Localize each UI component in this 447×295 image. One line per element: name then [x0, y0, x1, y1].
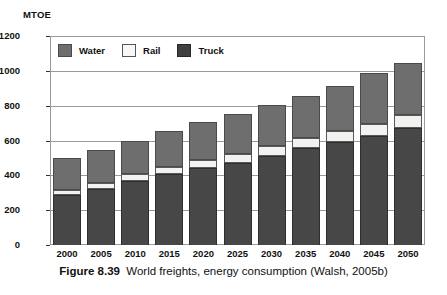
legend-swatch-rail-icon [122, 44, 136, 57]
bar-segment-rail-2025[interactable] [224, 154, 252, 164]
bar-group-2045[interactable] [360, 73, 388, 245]
bar-segment-truck-2000[interactable] [53, 195, 81, 245]
bar-group-2035[interactable] [292, 96, 320, 245]
bar-segment-truck-2050[interactable] [394, 128, 422, 245]
x-axis-tick-label-2050: 2050 [391, 249, 425, 259]
y-axis-tick-label: 800 [0, 101, 20, 111]
bar-group-2010[interactable] [121, 141, 149, 246]
legend-label-rail: Rail [143, 45, 160, 56]
legend-swatch-water-icon [58, 44, 72, 57]
bar-group-2005[interactable] [87, 150, 115, 245]
bar-segment-water-2025[interactable] [224, 114, 252, 154]
bar-group-2015[interactable] [155, 131, 183, 245]
bar-segment-rail-2010[interactable] [121, 174, 149, 181]
bar-segment-rail-2040[interactable] [326, 131, 354, 142]
bar-segment-truck-2035[interactable] [292, 148, 320, 245]
legend-entry-water[interactable]: Water [58, 44, 105, 57]
y-axis-tick-mark [46, 245, 50, 246]
bar-segment-water-2050[interactable] [394, 63, 422, 115]
x-axis-tick-label-2010: 2010 [118, 249, 152, 259]
bar-group-2000[interactable] [53, 158, 81, 245]
bar-group-2020[interactable] [189, 122, 217, 245]
y-axis-unit-label: MTOE [23, 9, 51, 20]
legend-swatch-truck-icon [177, 44, 191, 57]
bar-segment-rail-2045[interactable] [360, 124, 388, 136]
bar-segment-rail-2020[interactable] [189, 160, 217, 169]
figure-caption: Figure 8.39 World freights, energy consu… [0, 265, 447, 277]
y-axis-tick-label: 0 [0, 240, 20, 250]
x-axis-tick-label-2020: 2020 [186, 249, 220, 259]
bar-segment-truck-2040[interactable] [326, 142, 354, 245]
bar-segment-water-2045[interactable] [360, 73, 388, 124]
bar-group-2025[interactable] [224, 114, 252, 245]
figure-container: MTOE 020040060080010001200 2000200520102… [0, 0, 447, 295]
bar-segment-truck-2030[interactable] [258, 156, 286, 245]
bar-segment-truck-2005[interactable] [87, 189, 115, 245]
x-axis-tick-label-2030: 2030 [255, 249, 289, 259]
bar-segment-rail-2030[interactable] [258, 146, 286, 156]
x-axis-tick-label-2005: 2005 [84, 249, 118, 259]
bar-group-2050[interactable] [394, 63, 422, 245]
x-axis-tick-label-2015: 2015 [152, 249, 186, 259]
bar-segment-truck-2045[interactable] [360, 136, 388, 245]
bar-segment-water-2015[interactable] [155, 131, 183, 167]
bar-segment-rail-2005[interactable] [87, 183, 115, 189]
bar-segment-water-2010[interactable] [121, 141, 149, 174]
legend-entry-truck[interactable]: Truck [177, 44, 223, 57]
x-axis-tick-label-2040: 2040 [323, 249, 357, 259]
y-axis-tick-label: 200 [0, 205, 20, 215]
figure-caption-label: Figure 8.39 [59, 265, 120, 277]
figure-caption-text: World freights, energy consumption (Wals… [126, 265, 387, 277]
x-axis-tick-label-2000: 2000 [50, 249, 84, 259]
bar-segment-rail-2050[interactable] [394, 115, 422, 128]
bar-segment-water-2020[interactable] [189, 122, 217, 159]
bar-segment-water-2040[interactable] [326, 86, 354, 131]
bars-layer [50, 36, 425, 245]
chart-legend: WaterRailTruck [58, 41, 241, 59]
x-axis-tick-label-2035: 2035 [289, 249, 323, 259]
x-axis-tick-label-2045: 2045 [357, 249, 391, 259]
bar-group-2030[interactable] [258, 105, 286, 245]
x-axis-tick-layer: 2000200520102015202020252030203520402045… [50, 249, 425, 263]
y-axis-tick-label: 1000 [0, 66, 20, 76]
bar-segment-truck-2020[interactable] [189, 168, 217, 245]
legend-entry-rail[interactable]: Rail [122, 44, 160, 57]
bar-group-2040[interactable] [326, 86, 354, 245]
bar-segment-truck-2015[interactable] [155, 174, 183, 245]
legend-label-water: Water [79, 45, 105, 56]
x-axis-tick-label-2025: 2025 [221, 249, 255, 259]
y-axis-tick-label: 400 [0, 170, 20, 180]
bar-segment-water-2000[interactable] [53, 158, 81, 190]
bar-segment-rail-2000[interactable] [53, 190, 81, 195]
legend-label-truck: Truck [198, 45, 223, 56]
y-axis-tick-label: 600 [0, 136, 20, 146]
bar-segment-water-2035[interactable] [292, 96, 320, 138]
bar-segment-water-2030[interactable] [258, 105, 286, 146]
bar-segment-water-2005[interactable] [87, 150, 115, 183]
bar-segment-rail-2035[interactable] [292, 138, 320, 148]
bar-segment-truck-2025[interactable] [224, 163, 252, 245]
bar-segment-rail-2015[interactable] [155, 167, 183, 175]
bar-segment-truck-2010[interactable] [121, 181, 149, 245]
y-axis-tick-label: 1200 [0, 31, 20, 41]
